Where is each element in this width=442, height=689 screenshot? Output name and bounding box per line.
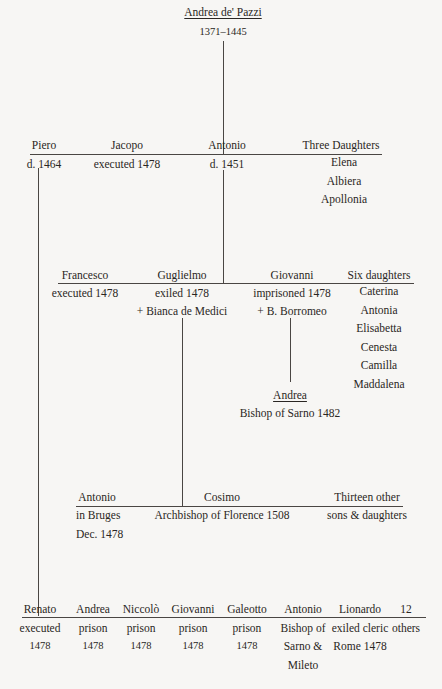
andrea-bishop-note: Bishop of Sarno 1482 <box>240 406 341 420</box>
gen2-antonio-name: Antonio <box>208 138 246 152</box>
gen5-galeotto-line2: 1478 <box>227 637 267 656</box>
daughter-apollonia: Apollonia <box>321 190 367 209</box>
gen4-others-note: sons & daughters <box>327 508 407 522</box>
gen5-antonio-line1: Bishop of <box>280 619 325 638</box>
gen5-lionardo-name: Lionardo <box>332 600 389 619</box>
root-dates: 1371–1445 <box>199 25 246 39</box>
gen5-andrea-name: Andrea <box>76 600 110 619</box>
daughter-albiera: Albiera <box>321 172 367 191</box>
gen5-niccolo-name: Niccolò <box>123 600 159 619</box>
gen5-renato-line1: executed <box>20 619 61 638</box>
gen2-daughters-list: Elena Albiera Apollonia <box>321 153 367 209</box>
daughter-elisabetta: Elisabetta <box>353 319 404 338</box>
gen5-giovanni-line1: prison <box>172 619 215 638</box>
gen4-antonio-note: in Bruges <box>76 508 120 522</box>
gen4-antonio-name: Antonio <box>78 490 116 504</box>
connector-antonio <box>223 170 224 284</box>
gen5-giovanni-line2: 1478 <box>172 637 215 656</box>
gen5-niccolo-line1: prison <box>123 619 159 638</box>
gen5-giovanni: Giovanni prison 1478 <box>172 600 215 656</box>
daughter-cenesta: Cenesta <box>353 338 404 357</box>
gen5-others: 12 others <box>388 600 424 637</box>
gen4-cosimo-note: Archbishop of Florence 1508 <box>154 508 289 522</box>
gen5-renato-line2: 1478 <box>20 637 61 656</box>
gen2-daughters-heading: Three Daughters <box>303 138 380 152</box>
connector-piero <box>38 168 39 616</box>
gen3-francesco-note: executed 1478 <box>52 286 119 300</box>
gen3-giovanni-name: Giovanni <box>271 268 314 282</box>
gen4-others-name: Thirteen other <box>334 490 399 504</box>
gen5-niccolo-line2: 1478 <box>123 637 159 656</box>
root-name: Andrea de' Pazzi <box>184 5 261 19</box>
gen5-niccolo: Niccolò prison 1478 <box>123 600 159 656</box>
gen4-antonio-note2: Dec. 1478 <box>76 527 123 541</box>
gen3-giovanni-note: imprisoned 1478 <box>253 286 331 300</box>
gen3-guglielmo-name: Guglielmo <box>157 268 206 282</box>
daughter-elena: Elena <box>321 153 367 172</box>
gen5-lionardo: Lionardo exiled cleric Rome 1478 <box>332 600 389 656</box>
gen5-renato-name: Renato <box>20 600 61 619</box>
gen2-piero-note: d. 1464 <box>27 157 62 171</box>
gen3-guglielmo-note: exiled 1478 <box>155 286 209 300</box>
gen5-lionardo-line2: Rome 1478 <box>332 637 389 656</box>
gen2-antonio-note: d. 1451 <box>210 157 245 171</box>
gen5-andrea-line1: prison <box>76 619 110 638</box>
gen2-piero-name: Piero <box>32 138 56 152</box>
gen5-antonio-name: Antonio <box>280 600 325 619</box>
gen2-jacopo-name: Jacopo <box>111 138 143 152</box>
gen5-antonio: Antonio Bishop of Sarno & Mileto <box>280 600 325 674</box>
gen5-andrea-line2: 1478 <box>76 637 110 656</box>
gen3-giovanni-spouse: + B. Borromeo <box>257 304 326 318</box>
gen5-andrea: Andrea prison 1478 <box>76 600 110 656</box>
gen3-daughters-heading: Six daughters <box>348 268 411 282</box>
gen3-francesco-name: Francesco <box>62 268 109 282</box>
connector-guglielmo <box>182 318 183 506</box>
gen5-antonio-line2: Sarno & <box>280 637 325 656</box>
gen3-guglielmo-spouse: + Bianca de Medici <box>137 304 227 318</box>
gen5-renato: Renato executed 1478 <box>20 600 61 656</box>
daughter-camilla: Camilla <box>353 356 404 375</box>
gen5-galeotto: Galeotto prison 1478 <box>227 600 267 656</box>
connector-giovanni <box>290 318 291 382</box>
gen5-others-name: 12 others <box>388 600 424 637</box>
gen2-jacopo-note: executed 1478 <box>94 157 161 171</box>
gen5-galeotto-name: Galeotto <box>227 600 267 619</box>
gen5-galeotto-line1: prison <box>227 619 267 638</box>
gen5-lionardo-line1: exiled cleric <box>332 619 389 638</box>
andrea-bishop-name: Andrea <box>273 388 307 402</box>
daughter-antonia: Antonia <box>353 301 404 320</box>
gen5-giovanni-name: Giovanni <box>172 600 215 619</box>
daughter-maddalena: Maddalena <box>353 375 404 394</box>
gen4-line <box>76 506 403 507</box>
gen4-cosimo-name: Cosimo <box>204 490 240 504</box>
daughter-caterina: Caterina <box>353 282 404 301</box>
gen3-daughters-list: Caterina Antonia Elisabetta Cenesta Cami… <box>353 282 404 394</box>
gen5-antonio-line3: Mileto <box>280 656 325 675</box>
